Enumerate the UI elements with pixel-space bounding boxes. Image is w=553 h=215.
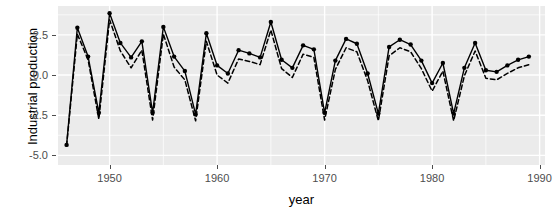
data-point — [172, 54, 176, 58]
x-tick-label: 1950 — [85, 172, 135, 184]
y-tick-label: -2.5 — [14, 109, 48, 121]
data-point — [441, 61, 445, 65]
data-point — [462, 66, 466, 70]
plot-svg — [58, 6, 545, 165]
data-point — [333, 58, 337, 62]
data-point — [344, 37, 348, 41]
gridlines-minor — [58, 6, 545, 165]
gridlines-major — [58, 6, 545, 165]
y-tick-mark — [52, 115, 56, 116]
data-point — [484, 68, 488, 72]
x-tick-mark — [432, 165, 433, 169]
data-point — [505, 63, 509, 67]
data-point — [398, 38, 402, 42]
data-point — [183, 69, 187, 73]
data-point — [419, 58, 423, 62]
x-tick-label: 1980 — [407, 172, 457, 184]
y-tick-label: 2.5 — [14, 29, 48, 41]
data-series-layer — [64, 11, 531, 147]
series-line-fitted — [67, 20, 529, 146]
y-tick-mark — [52, 155, 56, 156]
x-tick-mark — [217, 165, 218, 169]
series-line-observed — [67, 13, 529, 145]
x-tick-mark — [110, 165, 111, 169]
x-tick-label: 1960 — [192, 172, 242, 184]
data-point — [204, 31, 208, 35]
y-tick-mark — [52, 75, 56, 76]
data-point — [408, 42, 412, 46]
data-point — [161, 25, 165, 29]
data-point — [494, 70, 498, 74]
x-tick-label: 1970 — [300, 172, 350, 184]
data-point — [290, 66, 294, 70]
y-tick-mark — [52, 35, 56, 36]
data-point — [247, 51, 251, 55]
data-point — [430, 81, 434, 85]
x-tick-mark — [325, 165, 326, 169]
data-point — [473, 41, 477, 45]
industrial-production-chart: Industrial production 2.50.0-2.5-5.0 195… — [0, 0, 553, 215]
data-point — [312, 47, 316, 51]
y-tick-label: 0.0 — [14, 69, 48, 81]
y-axis-ticks: 2.50.0-2.5-5.0 — [0, 0, 48, 215]
data-point — [129, 55, 133, 59]
x-tick-mark — [540, 165, 541, 169]
data-point — [75, 25, 79, 29]
data-point — [236, 48, 240, 52]
x-axis-title: year — [58, 192, 545, 207]
data-point — [516, 58, 520, 62]
data-point — [140, 39, 144, 43]
data-point — [269, 20, 273, 24]
x-tick-label: 1990 — [515, 172, 553, 184]
data-point — [301, 43, 305, 47]
plot-panel — [58, 6, 545, 165]
data-point — [215, 63, 219, 67]
data-point — [527, 54, 531, 58]
data-point — [107, 11, 111, 15]
data-point — [355, 42, 359, 46]
data-point — [226, 71, 230, 75]
y-tick-label: -5.0 — [14, 149, 48, 161]
data-point — [387, 45, 391, 49]
